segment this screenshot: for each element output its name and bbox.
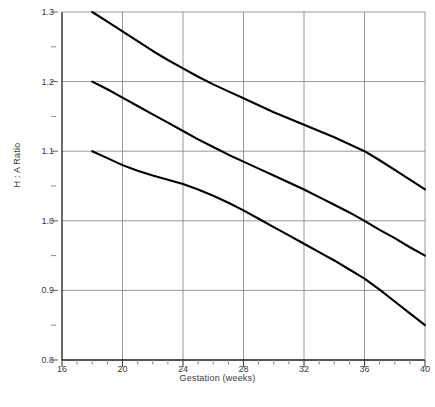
gridlines (62, 12, 425, 360)
axis-ticks (51, 12, 425, 367)
curve-lower (92, 151, 425, 325)
plot-area (0, 0, 435, 407)
figure-caption (4, 399, 244, 407)
curve-upper (92, 12, 425, 189)
chart-figure: H : A Ratio 0.80.91.01.11.21.3 162024283… (0, 0, 435, 407)
curve-median (92, 82, 425, 256)
data-curves (92, 12, 425, 325)
x-axis-title: Gestation (weeks) (0, 373, 435, 383)
